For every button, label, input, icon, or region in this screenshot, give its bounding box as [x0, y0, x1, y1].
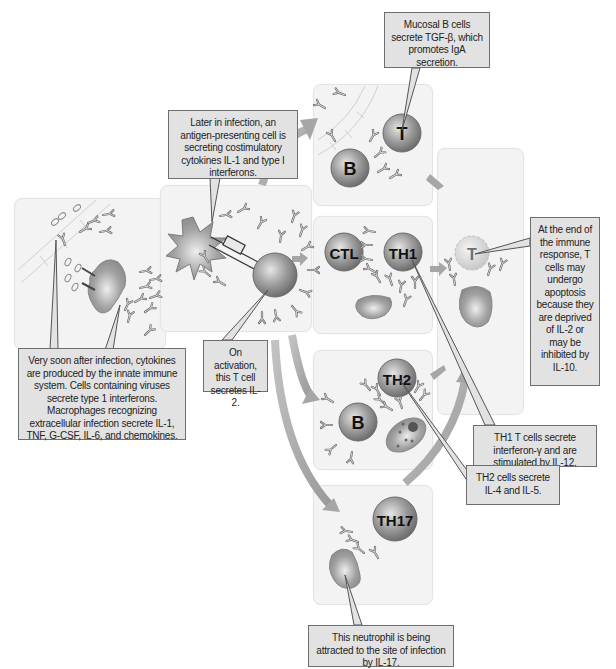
callout-neutrophil: This neutrophil is being attracted to th… [308, 625, 454, 667]
callout-mucosal-b-cells: Mucosal B cells secrete TGF-β, which pro… [384, 12, 490, 68]
callout-apc: Later in infection, an antigen-presentin… [168, 110, 298, 179]
diagram-artwork: B T CTL TH1 TH2 B TH17 [0, 0, 616, 669]
callout-end-of-response: At the end of the immune response, T cel… [530, 217, 600, 386]
callout-th2: TH2 cells secrete IL-4 and IL-5. [466, 465, 560, 505]
callout-th1: TH1 T cells secrete interferon-γ and are… [473, 425, 597, 467]
eosinophil [380, 411, 432, 459]
ctl-cell-label: CTL [329, 245, 358, 262]
neutrophil [329, 549, 360, 588]
macrophage-th1 [356, 295, 392, 318]
th1-cell-label: TH1 [389, 245, 417, 262]
macrophage-resolution [459, 286, 492, 327]
epithelium-mucosal [318, 86, 378, 155]
b-cell-th2-label: B [352, 413, 365, 433]
th17-cell-label: TH17 [377, 512, 414, 529]
antigen-presenting-cell [166, 217, 226, 280]
naive-t-cell [253, 253, 297, 297]
th2-cell-label: TH2 [383, 371, 411, 388]
callout-t-cell-activation: On activation, this T cell secretes IL-2… [203, 340, 268, 392]
b-cell-mucosal-label: B [344, 159, 357, 179]
callout-innate-response: Very soon after infection, cytokines are… [18, 348, 186, 440]
